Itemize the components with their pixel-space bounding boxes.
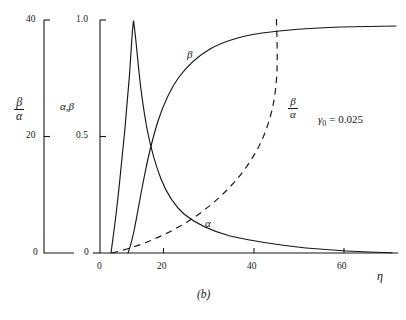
axis-left-outer-label-denominator: α xyxy=(14,110,24,123)
panel-caption: (b) xyxy=(197,288,210,300)
curve-beta xyxy=(128,26,396,253)
axis-left-inner-label: α,β xyxy=(60,101,74,112)
axis-x xyxy=(100,248,398,253)
curve-label-beta-over-alpha: β α xyxy=(288,96,298,120)
axis-left-outer-tick-40: 40 xyxy=(26,15,36,25)
axis-x-tick-20: 20 xyxy=(157,262,167,272)
gamma-zero-annotation: γ0= 0.025 xyxy=(318,113,363,128)
axis-left-outer-label-numerator: β xyxy=(14,96,24,110)
curve-label-beta: β xyxy=(187,49,192,60)
figure-panel-b: β α 40 20 0 α,β 1.0 0.5 0 0 20 40 60 η β… xyxy=(0,0,406,320)
axis-left-inner-tick-1.0: 1.0 xyxy=(76,15,88,25)
curve-label-ratio-numerator: β xyxy=(288,96,298,109)
axis-x-tick-40: 40 xyxy=(247,262,257,272)
axis-left-outer-label: β α xyxy=(14,96,24,122)
axis-x-tick-60: 60 xyxy=(337,262,347,272)
axis-left-outer-tick-20: 20 xyxy=(26,131,36,141)
axis-left-outer-tick-0: 0 xyxy=(33,248,38,258)
axis-x-label: η xyxy=(377,270,383,282)
axis-left-inner xyxy=(93,20,106,253)
curve-label-alpha: α xyxy=(205,218,211,229)
gamma-subscript: 0 xyxy=(322,119,326,128)
axis-left-inner-tick-0.5: 0.5 xyxy=(76,131,88,141)
chart-canvas xyxy=(0,0,406,320)
axis-left-inner-tick-0: 0 xyxy=(84,248,89,258)
axis-left-outer xyxy=(44,20,74,253)
axis-x-tick-0: 0 xyxy=(97,262,102,272)
curve-label-ratio-denominator: α xyxy=(288,109,298,121)
gamma-value: = 0.025 xyxy=(329,113,363,125)
